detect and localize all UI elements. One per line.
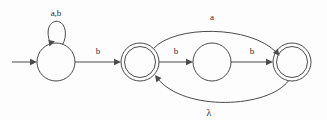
transition-q0-q1: b — [75, 46, 121, 65]
transition-q2-q3-arrow-head — [266, 59, 273, 66]
state-q3-inner-circle — [277, 47, 308, 78]
transition-q1-q2-arrow-head — [186, 59, 193, 66]
transition-label-q1-q2: b — [174, 46, 179, 56]
state-q3 — [273, 43, 311, 81]
transition-q3-q1-curve — [158, 79, 289, 103]
initial-arrow — [12, 59, 37, 66]
transition-label-q2-q3: b — [250, 46, 255, 56]
state-q1-inner-circle — [125, 47, 156, 78]
transition-q1-q3-above: a — [154, 12, 280, 56]
fsm-diagram: a,b b b b — [0, 0, 327, 120]
transition-label-self-loop-q0: a,b — [51, 8, 62, 18]
transition-q1-q2: b — [159, 46, 193, 65]
transition-q1-q3-curve — [154, 31, 277, 52]
state-q3-outer-circle — [273, 43, 311, 81]
transition-label-q3-q1: λ — [207, 107, 212, 118]
transition-q0-q1-arrow-head — [114, 59, 121, 66]
transition-label-q1-q3: a — [210, 12, 214, 22]
state-q1-outer-circle — [121, 43, 159, 81]
state-q2-circle — [193, 43, 231, 81]
state-q0-circle — [37, 43, 75, 81]
state-q0 — [37, 43, 75, 81]
transition-self-loop-q0: a,b — [48, 8, 65, 47]
transition-q3-q1-below: λ — [155, 75, 289, 118]
transition-label-q0-q1: b — [96, 46, 101, 56]
transition-q2-q3: b — [231, 46, 273, 65]
initial-arrow-head — [30, 59, 37, 66]
state-q1 — [121, 43, 159, 81]
state-q2 — [193, 43, 231, 81]
fsm-canvas: a,b b b b — [0, 0, 327, 120]
